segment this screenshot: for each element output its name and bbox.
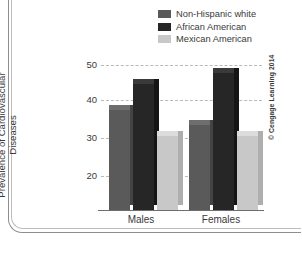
legend-item-african-american: African American <box>158 22 256 32</box>
y-axis-title-line-1: Prevalence of Cardiovascular <box>0 72 7 197</box>
y-tick-label: 30 <box>75 133 97 143</box>
bar-chart-figure: Non-Hispanic white African American Mexi… <box>0 0 302 257</box>
bar-males-mexican-american <box>157 136 178 210</box>
copyright-notice: © Cengage Learning 2014 <box>268 55 276 141</box>
legend-item-mexican-american: Mexican American <box>158 34 256 44</box>
y-axis-ticks: 50 40 30 20 <box>71 60 97 210</box>
gridline-50 <box>101 65 262 66</box>
legend-item-label: African American <box>176 22 246 32</box>
legend-swatch-icon <box>158 23 171 31</box>
bar-front-face <box>189 125 210 210</box>
bar-females-african-american <box>213 73 234 210</box>
bar-females-mexican-american <box>237 136 258 210</box>
bar-side-face <box>258 131 263 205</box>
x-tick-label-males: Males <box>111 214 171 226</box>
bar-males-non-hispanic-white <box>109 110 130 210</box>
plot-area <box>101 60 262 210</box>
bar-front-face <box>109 110 130 210</box>
bar-front-face <box>213 73 234 210</box>
bar-front-face <box>237 136 258 210</box>
bar-side-face <box>178 131 183 205</box>
bar-front-face <box>157 136 178 210</box>
y-axis-title: Prevalence of Cardiovascular Diseases <box>0 60 20 210</box>
bar-males-african-american <box>133 84 154 210</box>
bar-females-non-hispanic-white <box>189 125 210 210</box>
y-tick-label: 40 <box>75 95 97 105</box>
x-tick-label-females: Females <box>191 214 251 226</box>
legend-item-non-hispanic-white: Non-Hispanic white <box>158 9 256 19</box>
bar-front-face <box>133 84 154 210</box>
legend-item-label: Mexican American <box>176 34 252 44</box>
legend-item-label: Non-Hispanic white <box>176 9 256 19</box>
chart-legend: Non-Hispanic white African American Mexi… <box>158 9 256 44</box>
x-axis-line <box>98 210 264 211</box>
y-tick-label: 50 <box>75 60 97 70</box>
y-tick-label: 20 <box>75 171 97 181</box>
y-axis-title-line-2: Diseases <box>7 115 19 154</box>
legend-swatch-icon <box>158 35 171 43</box>
legend-swatch-icon <box>158 10 171 18</box>
